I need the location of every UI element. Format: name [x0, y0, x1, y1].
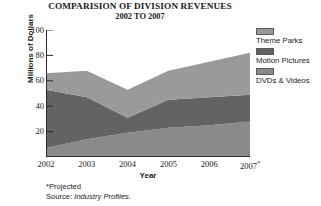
chart-title-block: COMPARISION OF DIVISION REVENUES 2002 TO… [20, 1, 260, 22]
y-tick-60: 60 [18, 76, 44, 85]
legend-item-theme-parks[interactable]: Theme Parks [256, 28, 320, 45]
chart-footnotes: *Projected Source: Industry Profiles. [46, 182, 246, 201]
x-tick-label-2007p: 2007* [240, 159, 260, 171]
chart-legend: Theme Parks Motion Pictures DVDs & Video… [256, 28, 320, 88]
y-tick-40: 40 [18, 102, 44, 111]
footnote-source: Source: Industry Profiles. [46, 192, 246, 202]
legend-label-theme-parks: Theme Parks [256, 36, 320, 45]
area-layers [46, 53, 250, 157]
x-tick-label-2004: 2004 [119, 159, 136, 169]
footnote-source-prefix: Source: [46, 192, 74, 201]
plot-area [46, 30, 250, 157]
legend-item-dvds-videos[interactable]: DVDs & Videos [256, 68, 320, 85]
legend-swatch-motion-pictures [256, 48, 274, 55]
chart-figure: COMPARISION OF DIVISION REVENUES 2002 TO… [0, 0, 321, 206]
legend-item-motion-pictures[interactable]: Motion Pictures [256, 48, 320, 65]
x-tick-label-2003: 2003 [78, 159, 95, 169]
y-tick-20: 20 [18, 127, 44, 136]
y-tick-80: 80 [18, 51, 44, 60]
footnote-projected: *Projected [46, 182, 246, 192]
y-axis-ticks: Millions of Dollars 100 80 60 40 20 [14, 30, 44, 157]
x-tick-label-2006: 2006 [201, 159, 218, 169]
legend-swatch-dvds-videos [256, 68, 274, 75]
x-axis-ticks: 200220032004200520062007* [46, 159, 250, 171]
legend-swatch-theme-parks [256, 28, 274, 35]
x-tick-label-2005: 2005 [160, 159, 177, 169]
y-tick-100: 100 [18, 26, 44, 35]
legend-label-dvds-videos: DVDs & Videos [256, 76, 320, 85]
legend-label-motion-pictures: Motion Pictures [256, 56, 320, 65]
projected-asterisk: * [257, 159, 260, 166]
chart-subtitle: 2002 TO 2007 [20, 12, 260, 22]
footnote-source-title: Industry Profiles. [74, 192, 131, 201]
x-axis-label: Year [46, 171, 250, 180]
x-tick-label-2002: 2002 [38, 159, 55, 169]
stacked-area-chart [46, 30, 250, 157]
page-title: COMPARISION OF DIVISION REVENUES [20, 1, 260, 12]
